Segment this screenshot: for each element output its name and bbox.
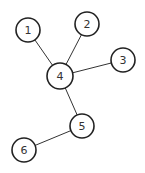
node-4: 4: [47, 63, 73, 89]
node-label: 5: [79, 120, 86, 133]
node-label: 2: [84, 18, 91, 31]
graph-diagram: 123456: [0, 0, 145, 173]
node-6: 6: [12, 138, 36, 162]
node-label: 1: [25, 24, 32, 37]
node-3: 3: [111, 48, 135, 72]
nodes-layer: 123456: [12, 12, 135, 162]
node-label: 3: [120, 54, 127, 67]
node-1: 1: [16, 18, 40, 42]
node-2: 2: [75, 12, 99, 36]
node-label: 6: [21, 144, 28, 157]
node-label: 4: [57, 70, 64, 83]
node-5: 5: [70, 114, 94, 138]
